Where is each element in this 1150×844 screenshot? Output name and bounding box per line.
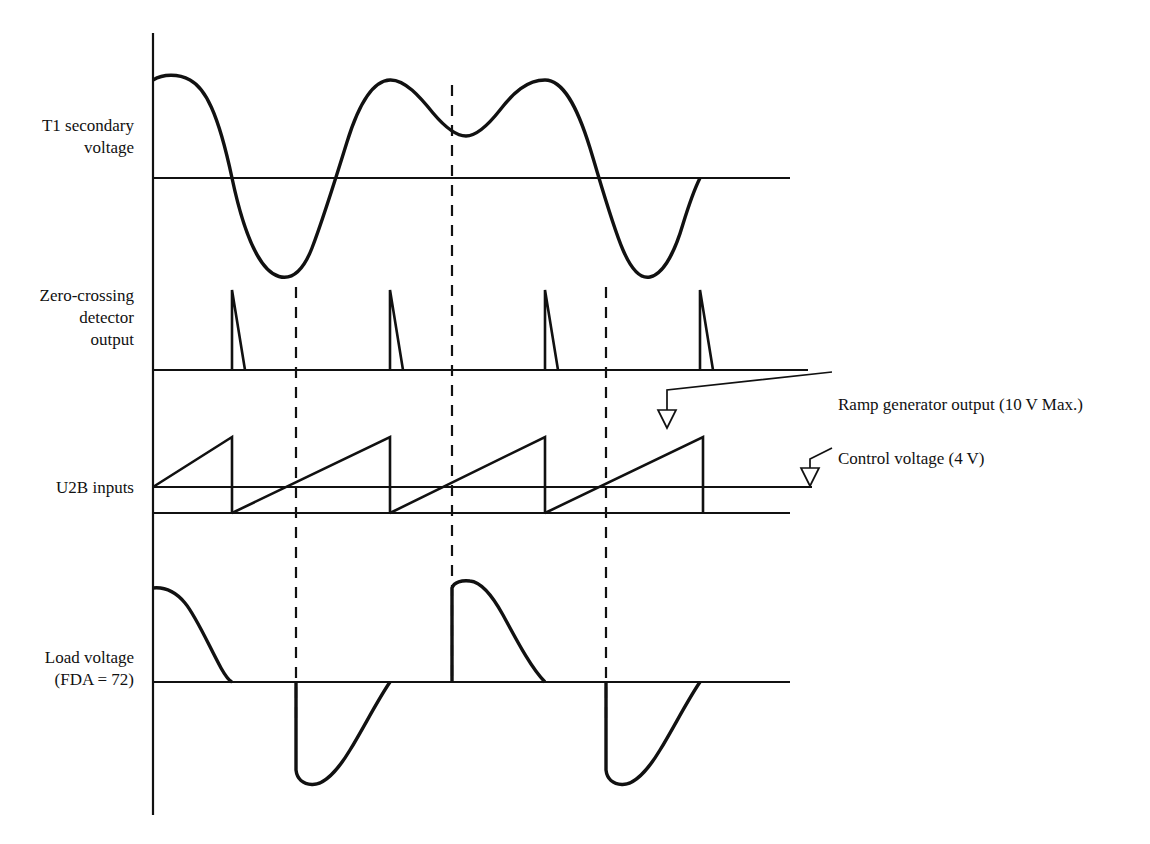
ramp-segment-2 xyxy=(232,437,390,513)
timing-diagram-svg: T1 secondary voltage Zero-crossing detec… xyxy=(0,0,1150,844)
row-label-load-voltage-line2: (FDA = 72) xyxy=(55,670,134,689)
row-label-t1-secondary-line1: T1 secondary xyxy=(42,116,135,135)
zcd-pulse-1 xyxy=(232,290,245,370)
row-label-zero-crossing-line3: output xyxy=(91,330,135,349)
row-label-load-voltage-line1: Load voltage xyxy=(45,648,134,667)
load-conduction-3-positive xyxy=(452,581,545,682)
callout-ramp-generator-output: Ramp generator output (10 V Max.) xyxy=(838,395,1083,414)
row-label-zero-crossing-line1: Zero-crossing xyxy=(40,286,135,305)
waveform-figure: T1 secondary voltage Zero-crossing detec… xyxy=(0,0,1150,844)
ramp-segment-3 xyxy=(390,437,545,513)
zcd-pulse-2 xyxy=(390,290,403,370)
callout-control-voltage: Control voltage (4 V) xyxy=(838,449,985,468)
zcd-pulse-4 xyxy=(700,290,713,370)
ramp-callout-leader xyxy=(667,372,832,412)
load-conduction-4-negative xyxy=(606,682,700,785)
ramp-segment-1 xyxy=(153,437,232,513)
t1-secondary-sine xyxy=(153,75,700,277)
control-callout-arrowhead xyxy=(801,468,819,486)
ramp-callout-arrowhead xyxy=(658,410,676,428)
load-conduction-2-negative xyxy=(296,682,390,785)
load-conduction-1-positive xyxy=(153,588,232,682)
control-callout-leader xyxy=(810,448,832,470)
row-label-t1-secondary-line2: voltage xyxy=(84,138,134,157)
ramp-segment-4 xyxy=(545,437,703,513)
row-label-u2b-inputs: U2B inputs xyxy=(56,478,134,497)
row-label-zero-crossing-line2: detector xyxy=(79,308,134,327)
zcd-pulse-3 xyxy=(545,290,558,370)
